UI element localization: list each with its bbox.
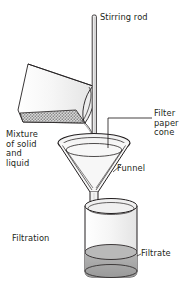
label-filtration: Filtration xyxy=(12,234,49,244)
label-mixture-of-solid-and-liquid: Mixture of solid and liquid xyxy=(6,130,38,168)
label-stirring-rod: Stirring rod xyxy=(100,13,148,23)
filtration-diagram: Stirring rod Filter paper cone Mixture o… xyxy=(0,0,183,281)
receiving-beaker xyxy=(84,199,141,278)
stirring-rod xyxy=(92,15,96,150)
label-filter-paper-cone: Filter paper cone xyxy=(154,109,179,138)
filtrate-liquid xyxy=(84,245,138,278)
label-funnel: Funnel xyxy=(117,164,145,174)
label-filtrate: Filtrate xyxy=(141,249,171,259)
pouring-beaker xyxy=(18,64,95,133)
